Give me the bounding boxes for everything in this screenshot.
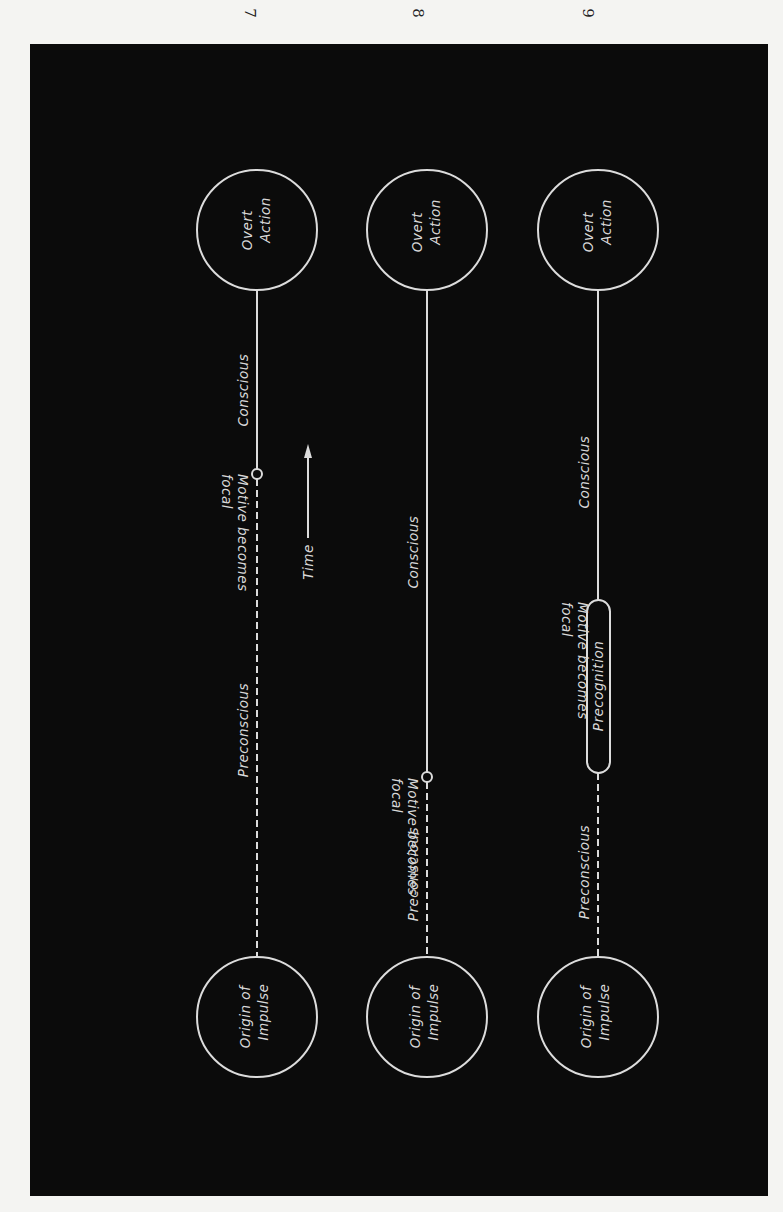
row-9: Overt Action Conscious Precognition Moti… [538, 170, 658, 1077]
origin-label-2: Impulse [425, 984, 441, 1041]
conscious-label: Conscious [235, 354, 251, 427]
conscious-label: Conscious [576, 436, 592, 509]
precognition-label: Precognition [590, 641, 606, 731]
origin-label-1: Origin of [237, 984, 253, 1048]
origin-label-2: Impulse [255, 984, 271, 1041]
focal-label-2: focal [219, 474, 235, 509]
overt-action-label-2: Action [257, 197, 273, 244]
time-arrow: Time [300, 444, 316, 580]
origin-label-1: Origin of [407, 984, 423, 1048]
overt-action-label-1: Overt [239, 210, 255, 250]
row-7: Overt Action Conscious Motive becomes fo… [197, 170, 317, 1077]
focal-label-2: focal [389, 778, 405, 813]
preconscious-label: Preconscious [576, 825, 592, 919]
focal-label-1: Motive becomes [575, 602, 591, 720]
focal-label-2: focal [559, 602, 575, 637]
overt-action-label-2: Action [427, 199, 443, 246]
overt-action-label-1: Overt [580, 212, 596, 252]
focal-point-marker [252, 469, 262, 479]
time-label: Time [300, 544, 316, 579]
origin-label-2: Impulse [596, 984, 612, 1041]
origin-label-1: Origin of [578, 984, 594, 1048]
arrow-up-icon [304, 444, 312, 458]
row-8: Overt Action Conscious Motive becomes fo… [367, 170, 487, 1077]
focal-point-marker [422, 772, 432, 782]
overt-action-label-2: Action [598, 199, 614, 246]
overt-action-label-1: Overt [409, 212, 425, 252]
conscious-label: Conscious [405, 516, 421, 589]
preconscious-label: Preconscious [235, 683, 251, 777]
diagram: Overt Action Conscious Motive becomes fo… [0, 0, 783, 1212]
preconscious-label: Preconscious [405, 827, 421, 921]
focal-label-1: Motive becomes [235, 474, 251, 592]
